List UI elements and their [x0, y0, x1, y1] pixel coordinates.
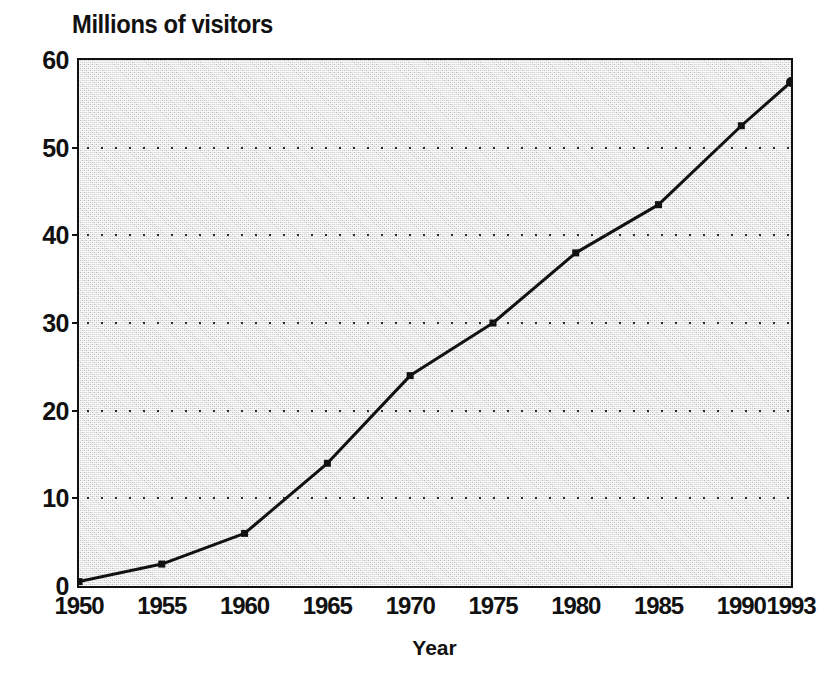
- data-point-marker: [655, 201, 662, 208]
- x-tick-label: 1985: [634, 592, 683, 620]
- data-point-marker: [407, 372, 414, 379]
- gridline: [79, 234, 791, 236]
- y-tick-label: 40: [42, 221, 69, 250]
- x-tick-label: 1955: [137, 592, 186, 620]
- gridline: [79, 410, 791, 412]
- data-point-marker: [158, 561, 165, 568]
- y-tick-label: 20: [42, 396, 69, 425]
- x-tick-label: 1990: [717, 592, 766, 620]
- x-tick-label: 1970: [386, 592, 435, 620]
- plot-inner: [79, 60, 791, 586]
- gridline: [79, 497, 791, 499]
- chart-figure: Millions of visitors 0102030405060 19501…: [0, 0, 833, 674]
- data-point-marker: [241, 530, 248, 537]
- x-axis-title: Year: [0, 636, 833, 660]
- x-axis-title-label: Year: [412, 636, 456, 660]
- y-tick-label: 60: [42, 46, 69, 75]
- x-tick-label: 1980: [551, 592, 600, 620]
- plot-area: [77, 58, 793, 588]
- x-axis: 1950195519601965197019751980198519901993: [0, 592, 833, 626]
- y-tick-label: 30: [42, 309, 69, 338]
- x-tick-label: 1965: [303, 592, 352, 620]
- gridline: [79, 147, 791, 149]
- chart-title: Millions of visitors: [72, 10, 273, 39]
- data-point-marker: [738, 122, 745, 129]
- x-tick-label: 1975: [468, 592, 517, 620]
- series-markers: [79, 77, 791, 585]
- data-point-marker: [572, 249, 579, 256]
- data-point-marker: [324, 460, 331, 467]
- y-axis: 0102030405060: [0, 0, 77, 674]
- gridline: [79, 322, 791, 324]
- y-tick-label: 10: [42, 484, 69, 513]
- x-tick-label: 1950: [55, 592, 104, 620]
- series-line: [79, 82, 791, 582]
- y-tick-label: 50: [42, 133, 69, 162]
- data-point-marker: [79, 578, 83, 585]
- x-tick-label: 1993: [767, 592, 816, 620]
- x-tick-label: 1960: [220, 592, 269, 620]
